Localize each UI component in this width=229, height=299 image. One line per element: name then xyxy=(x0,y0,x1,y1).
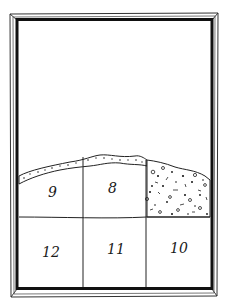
cell-label-12: 12 xyxy=(42,244,60,260)
excavation-diagram: 9 8 12 11 10 xyxy=(0,0,229,299)
cell-label-9: 9 xyxy=(48,184,57,200)
cell-label-8: 8 xyxy=(108,180,117,196)
cell-label-10: 10 xyxy=(170,240,188,256)
cell-label-11: 11 xyxy=(107,241,125,257)
